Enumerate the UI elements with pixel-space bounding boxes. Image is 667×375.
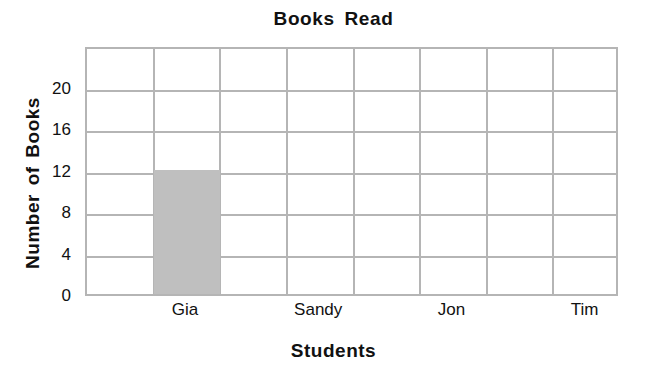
x-tick-label: Tim: [571, 300, 599, 320]
x-tick-label: Jon: [438, 300, 465, 320]
y-tick-label: 20: [52, 79, 71, 99]
chart-title: Books Read: [0, 8, 667, 30]
x-tick-label: Gia: [172, 300, 198, 320]
bar-chart-figure: Books Read Number of Books 048121620 Gia…: [0, 0, 667, 375]
y-tick-label: 16: [52, 120, 71, 140]
bar-gia: [154, 170, 221, 295]
x-axis-tick-labels: GiaSandyJonTim: [85, 300, 618, 324]
y-tick-label: 0: [62, 286, 71, 306]
y-tick-label: 8: [62, 203, 71, 223]
x-tick-label: Sandy: [294, 300, 342, 320]
y-tick-label: 12: [52, 162, 71, 182]
y-axis-tick-labels: 048121620: [0, 47, 79, 296]
y-tick-label: 4: [62, 245, 71, 265]
x-axis-title: Students: [0, 340, 667, 362]
gridline-horizontal: [87, 131, 616, 133]
gridline-horizontal: [87, 90, 616, 92]
plot-area: [85, 47, 618, 296]
